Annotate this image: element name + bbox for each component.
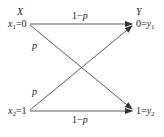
output-set-label: Y [136, 7, 142, 17]
output-y2-sub: 2 [151, 110, 155, 118]
edge-label-top-prefix: 1− [72, 10, 83, 21]
edge-label-bottom-prefix: 1− [72, 114, 83, 125]
edge-x1-y2 [30, 25, 132, 109]
edge-label-top: 1−p [72, 11, 88, 21]
output-y1-label: 0=y1 [136, 19, 155, 29]
edge-label-bottom-var: p [83, 114, 88, 125]
output-y2-value: 1= [136, 105, 147, 116]
output-y2-label: 1=y2 [136, 106, 155, 116]
input-set-label: X [17, 7, 23, 17]
edge-label-bottom: 1−p [72, 115, 88, 125]
edge-label-top-var: p [83, 10, 88, 21]
edge-x2-y1 [30, 26, 132, 110]
input-x2-value: =1 [16, 105, 27, 116]
edge-label-cross-up: p [32, 87, 37, 97]
edge-label-cross-down: p [32, 41, 37, 51]
input-x1-value: =0 [16, 18, 27, 29]
input-x2-label: x2=1 [8, 106, 27, 116]
output-y1-value: 0= [136, 18, 147, 29]
input-x1-label: x1=0 [8, 19, 27, 29]
output-y1-sub: 1 [151, 23, 155, 31]
